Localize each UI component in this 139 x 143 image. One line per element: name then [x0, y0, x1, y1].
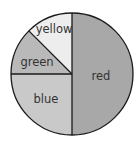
slice-label-green: green	[20, 55, 53, 69]
slice-label-red: red	[92, 69, 111, 83]
pie-chart: red blue green yellow	[0, 0, 139, 143]
slice-label-yellow: yellow	[36, 22, 73, 36]
slice-label-blue: blue	[34, 92, 59, 106]
